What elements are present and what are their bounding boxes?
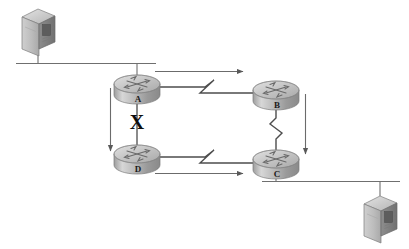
serial-link-d-c: [160, 150, 258, 163]
serial-link-a-b: [160, 80, 258, 93]
server-bottom-right[interactable]: [364, 196, 397, 243]
router-b-label: B: [270, 101, 284, 110]
broken-link-x-marker: X: [128, 112, 146, 132]
router-a-label: A: [131, 95, 145, 104]
network-diagram-canvas: [0, 0, 409, 249]
router-d-label: D: [131, 165, 145, 174]
server-top-left[interactable]: [22, 9, 55, 56]
serial-link-b-c: [270, 104, 282, 150]
router-c-label: C: [270, 170, 284, 179]
